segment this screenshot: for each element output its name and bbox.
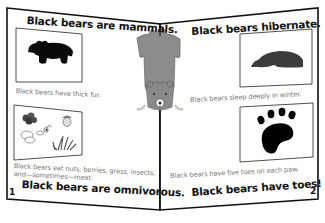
booklet-spread: Black bears are mammals. Black bears hav… bbox=[0, 0, 325, 223]
page-number-1: 1 bbox=[9, 187, 15, 197]
page-number-2: 2 bbox=[310, 186, 316, 196]
